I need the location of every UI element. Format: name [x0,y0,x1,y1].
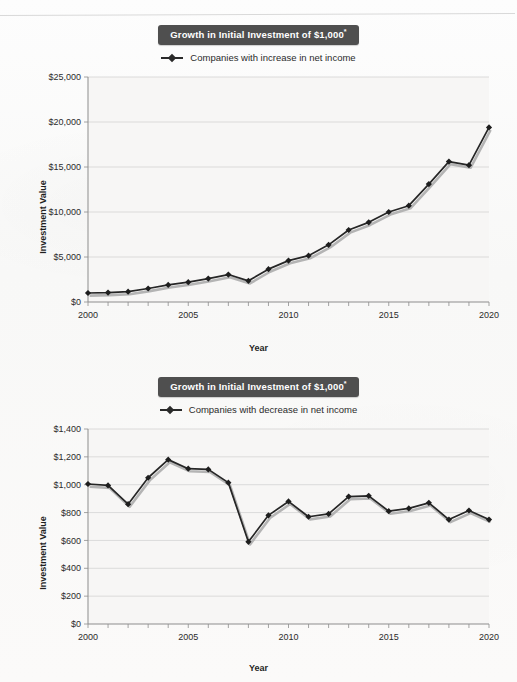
chart2-legend-label: Companies with decrease in net income [189,404,357,415]
page-top-rule [0,13,515,16]
y-axis-tick-label: $0 [71,619,81,629]
x-axis-tick-label: 2005 [178,632,198,642]
x-axis-tick-label: 2015 [379,310,399,320]
chart1-legend-label: Companies with increase in net income [190,52,355,63]
chart1-title-row: Growth in Initial Investment of $1,000* [0,24,517,45]
chart1-canvas: $0$5,000$10,000$15,000$20,000$25,0002000… [0,71,517,336]
diamond-marker-icon [166,405,174,413]
chart1-legend: Companies with increase in net income [0,52,517,63]
chart1-title-text: Growth in Initial Investment of $1,000 [170,29,344,40]
chart2-canvas: $0$200$400$600$800$1,000$1,200$1,4002000… [0,423,517,658]
y-axis-tick-label: $15,000 [48,162,81,172]
x-axis-tick-label: 2000 [78,310,98,320]
x-axis-tick-label: 2005 [178,310,198,320]
y-axis-tick-label: $600 [61,536,81,546]
chart1-plot-area: Investment Value $0$5,000$10,000$15,000$… [0,71,517,363]
chart2-title-row: Growth in Initial Investment of $1,000* [0,376,517,397]
y-axis-tick-label: $5,000 [53,252,81,262]
x-axis-tick-label: 2010 [278,310,298,320]
chart1-x-axis-title: Year [0,343,517,353]
y-axis-tick-label: $1,000 [53,480,81,490]
plot-background [88,429,489,624]
line-marker-icon [160,405,182,414]
chart2-title-text: Growth in Initial Investment of $1,000 [170,381,344,392]
y-axis-tick-label: $0 [71,297,81,307]
x-axis-tick-label: 2015 [379,632,399,642]
y-axis-tick-label: $20,000 [48,117,81,127]
chart1-title-banner: Growth in Initial Investment of $1,000* [158,25,358,45]
chart2-plot-area: Investment Value $0$200$400$600$800$1,00… [0,423,517,682]
x-axis-tick-label: 2020 [479,632,499,642]
y-axis-tick-label: $10,000 [48,207,81,217]
chart2-x-axis-title: Year [0,663,517,673]
chart2-title-footnote-marker: * [344,380,347,387]
y-axis-tick-label: $200 [61,591,81,601]
x-axis-tick-label: 2000 [78,632,98,642]
y-axis-tick-label: $800 [61,508,81,518]
figure-increase: Growth in Initial Investment of $1,000* … [0,24,517,363]
chart2-title-banner: Growth in Initial Investment of $1,000* [158,377,358,397]
figure-decrease: Growth in Initial Investment of $1,000* … [0,376,517,682]
x-axis-tick-label: 2010 [278,632,298,642]
y-axis-tick-label: $400 [61,563,81,573]
x-axis-tick-label: 2020 [479,310,499,320]
chart1-y-axis-title: Investment Value [38,180,48,254]
y-axis-tick-label: $25,000 [48,72,81,82]
chart2-y-axis-title: Investment Value [38,516,48,590]
y-axis-tick-label: $1,200 [53,452,81,462]
chart1-title-footnote-marker: * [344,28,347,35]
line-marker-icon [161,53,183,62]
y-axis-tick-label: $1,400 [53,424,81,434]
chart2-legend: Companies with decrease in net income [0,404,517,415]
diamond-marker-icon [168,53,176,61]
